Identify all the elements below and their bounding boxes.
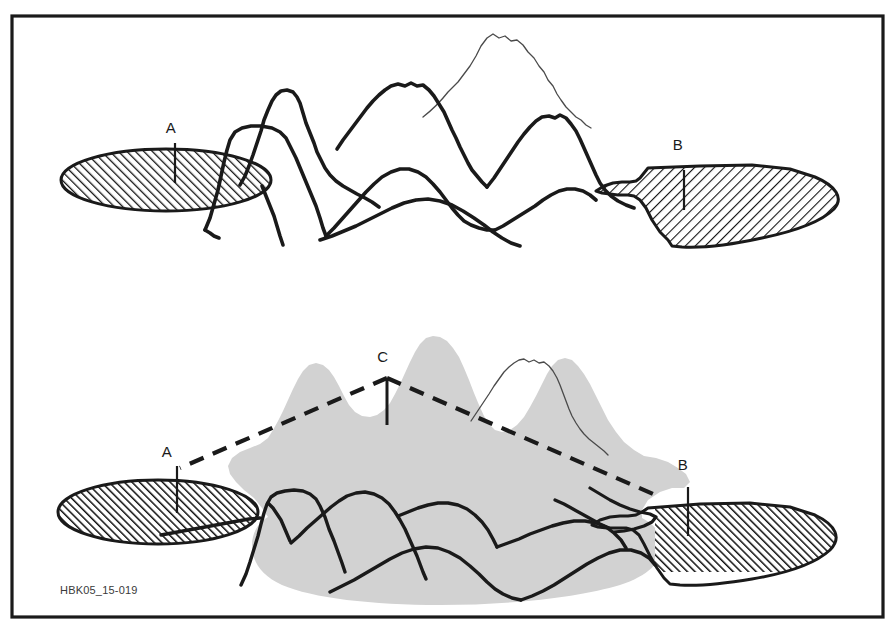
label-c-text: C bbox=[377, 348, 388, 365]
background-peak-thin-upper bbox=[423, 34, 591, 128]
ridge-upper-leftbase bbox=[205, 230, 219, 238]
coverage-area-gray bbox=[228, 336, 690, 605]
ridge-upper-rightmid bbox=[495, 189, 596, 230]
label-a-upper-text: A bbox=[166, 119, 177, 136]
figure-caption: HBK05_15-019 bbox=[60, 584, 138, 596]
ridge-upper-innerleft bbox=[262, 186, 283, 245]
ridge-upper-foreground bbox=[320, 199, 520, 246]
label-b-upper-text: B bbox=[673, 136, 684, 153]
upper-panel: A B bbox=[61, 34, 838, 247]
figure-page: A B bbox=[0, 0, 892, 637]
footprint-a-upper-shape bbox=[61, 149, 271, 211]
footprint-ellipse-a-lower bbox=[58, 480, 258, 544]
lower-panel: C A B HBK05_15-019 bbox=[58, 336, 836, 605]
footprint-ellipse-a-upper bbox=[61, 149, 271, 211]
label-a-lower-text: A bbox=[162, 443, 173, 460]
label-b-lower-text: B bbox=[678, 456, 689, 473]
line-of-sight-figure: A B bbox=[0, 0, 892, 637]
